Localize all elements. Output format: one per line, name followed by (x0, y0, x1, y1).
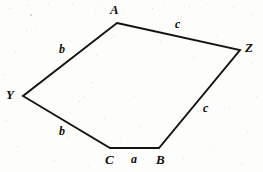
pentagon-outline (23, 23, 240, 148)
vertex-label-b: B (156, 153, 165, 166)
edge-label-z-b: c (203, 102, 208, 114)
edge-label-a-z: c (175, 18, 180, 30)
pentagon-diagram (0, 0, 263, 172)
edge-label-c-y: b (59, 125, 65, 137)
vertex-label-z: Z (245, 41, 253, 54)
vertex-label-y: Y (6, 88, 14, 101)
geometry-figure: A Z B C Y c c a b b (0, 0, 263, 172)
edge-label-b-c: a (131, 153, 137, 165)
vertex-label-c: C (105, 153, 114, 166)
edge-label-y-a: b (59, 43, 65, 55)
vertex-label-a: A (110, 3, 119, 16)
